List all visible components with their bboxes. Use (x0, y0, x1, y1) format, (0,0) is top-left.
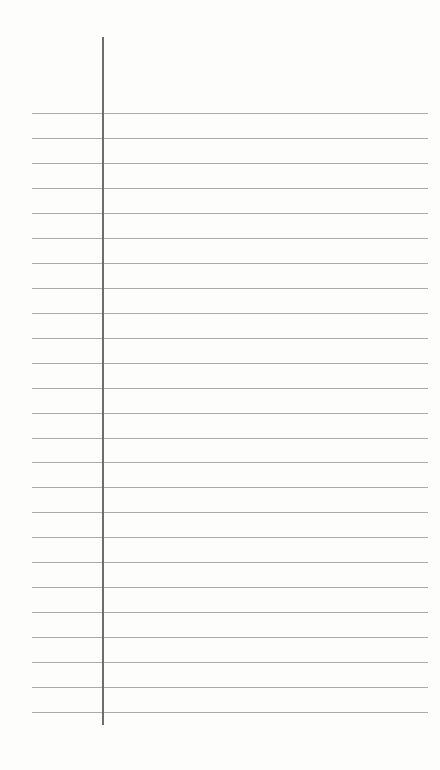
ruled-line (32, 462, 428, 463)
ruled-line (32, 363, 428, 364)
ruled-line (32, 388, 428, 389)
ruled-line (32, 438, 428, 439)
ruled-line (32, 487, 428, 488)
ruled-line (32, 213, 428, 214)
ruled-line (32, 687, 428, 688)
ruled-line (32, 338, 428, 339)
ruled-line (32, 113, 428, 114)
ruled-line (32, 288, 428, 289)
ruled-line (32, 587, 428, 588)
ruled-line (32, 263, 428, 264)
margin-line (102, 37, 104, 725)
ruled-line (32, 138, 428, 139)
ruled-line (32, 612, 428, 613)
ruled-line (32, 238, 428, 239)
ruled-line (32, 313, 428, 314)
ruled-line (32, 637, 428, 638)
ruled-line (32, 712, 428, 713)
ruled-line (32, 413, 428, 414)
ruled-line (32, 537, 428, 538)
ruled-line (32, 188, 428, 189)
ruled-line (32, 512, 428, 513)
ruled-line (32, 662, 428, 663)
lined-paper (0, 0, 440, 770)
ruled-line (32, 163, 428, 164)
ruled-line (32, 562, 428, 563)
